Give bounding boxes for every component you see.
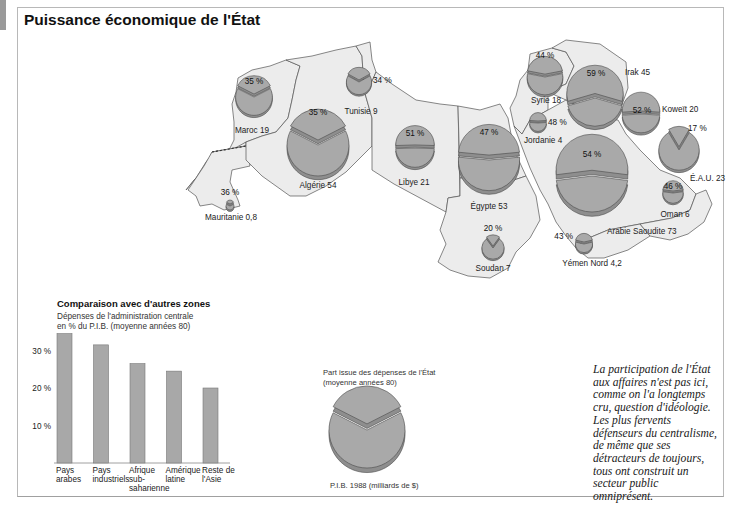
- share-label: 35 %: [309, 108, 328, 117]
- share-label: 59 %: [587, 69, 606, 78]
- bar-2: [130, 364, 145, 463]
- x-tick-label: Reste de: [202, 466, 235, 475]
- pie-Tunisie: [346, 67, 371, 96]
- x-tick-label: arabes: [56, 475, 81, 484]
- country-label: Libye 21: [399, 178, 430, 187]
- pie-legend: [329, 386, 405, 473]
- commentary-line: Les plus fervents: [593, 415, 733, 428]
- bar-chart: 10 %20 %30 %PaysarabesPaysindustrielsAfr…: [32, 334, 235, 493]
- share-label: 52 %: [633, 106, 652, 115]
- region-mauritanie: [188, 146, 250, 210]
- country-label: Syrie 18: [531, 96, 561, 105]
- country-label: Algérie 54: [300, 181, 337, 190]
- country-label: Jordanie 4: [524, 136, 563, 145]
- country-label: Yémen Nord 4,2: [562, 259, 622, 268]
- country-label: Irak 45: [625, 68, 650, 77]
- x-tick-label: Amérique: [166, 466, 201, 475]
- share-label: 51 %: [406, 129, 425, 138]
- country-label: Oman 6: [660, 210, 690, 219]
- x-tick-label: l'Asie: [202, 475, 222, 484]
- legend-pie: [329, 386, 405, 473]
- share-label: 46 %: [664, 182, 683, 191]
- share-label: 36 %: [221, 188, 240, 197]
- country-label: Arabie Saoudite 73: [607, 227, 677, 236]
- y-tick-label: 30 %: [32, 347, 51, 356]
- country-label: Koweït 20: [662, 105, 699, 114]
- share-label: 43 %: [554, 232, 573, 241]
- bar-1: [94, 345, 109, 463]
- commentary-line: omniprésent.: [593, 491, 733, 504]
- comparison-subtitle: Dépenses de l'administration centrale en…: [57, 312, 297, 332]
- share-label: 35 %: [245, 77, 264, 86]
- share-label: 17 %: [688, 124, 707, 133]
- commentary-line: La participation de l'État: [593, 364, 733, 377]
- y-tick-label: 10 %: [32, 422, 51, 431]
- country-label: Égypte 53: [471, 201, 508, 211]
- share-label: 47 %: [480, 128, 499, 137]
- comparison-subtitle-line: en % du P.I.B. (moyenne années 80): [57, 322, 297, 332]
- pie-Yémen Nord: [575, 233, 592, 254]
- x-tick-label: Pays: [56, 466, 74, 475]
- legend-share-line: (moyenne années 80): [323, 378, 435, 388]
- country-label: É.A.U. 23: [690, 173, 725, 183]
- comparison-subtitle-line: Dépenses de l'administration centrale: [57, 312, 297, 322]
- country-label: Soudan 7: [475, 264, 511, 273]
- comparison-title: Comparaison avec d'autres zones: [57, 298, 210, 309]
- country-label: Maroc 19: [235, 126, 270, 135]
- bar-3: [167, 371, 182, 463]
- commentary-line: cru, question d'idéologie.: [593, 402, 733, 415]
- x-tick-label: industriels: [93, 475, 130, 484]
- legend-gdp-label: P.I.B. 1988 (milliards de $): [330, 481, 419, 490]
- share-label: 20 %: [484, 224, 503, 233]
- commentary-text: La participation de l'Étataux affaires n…: [593, 364, 733, 504]
- x-tick-label: sub-: [129, 475, 145, 484]
- y-tick-label: 20 %: [32, 384, 51, 393]
- bar-4: [203, 388, 218, 463]
- country-label: Mauritanie 0,8: [205, 213, 257, 222]
- country-label: Tunisie 9: [345, 107, 378, 116]
- x-tick-label: Afrique: [129, 466, 155, 475]
- commentary-line: détracteurs de toujours,: [593, 453, 733, 466]
- pie-É.A.U.: [659, 127, 699, 173]
- share-label: 54 %: [583, 150, 602, 159]
- legend-share-label: Part issue des dépenses de l'État (moyen…: [323, 368, 435, 387]
- x-tick-label: Pays: [93, 466, 111, 475]
- share-label: 34 %: [373, 76, 392, 85]
- share-label: 44 %: [536, 51, 555, 60]
- bar-0: [57, 334, 72, 463]
- pie-Jordanie: [530, 113, 547, 133]
- x-tick-label: saharienne: [129, 484, 170, 493]
- pie-Mauritanie: [226, 200, 234, 212]
- x-tick-label: latine: [166, 475, 186, 484]
- share-label: 48 %: [548, 118, 567, 127]
- legend-share-line: Part issue des dépenses de l'État: [323, 368, 435, 378]
